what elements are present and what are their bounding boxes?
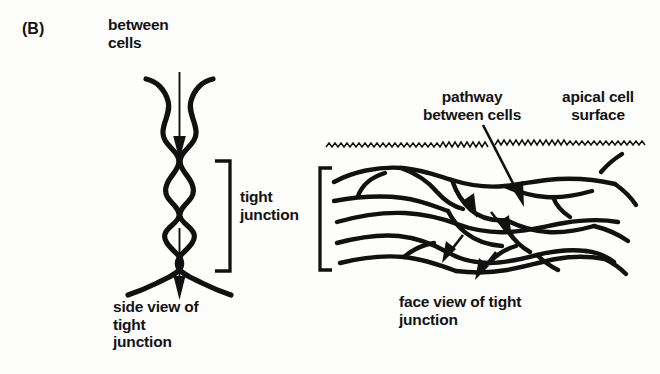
apical-cell-surface-line — [326, 140, 645, 147]
tortuous-path-arrow-4 — [475, 252, 496, 280]
diagram-artwork — [0, 0, 660, 374]
label-face-view-of-tight-junction: face view of tight junction — [399, 293, 521, 328]
right-plasma-membrane — [177, 79, 231, 295]
sealing-strand-network — [334, 154, 636, 274]
label-tight-junction: tight junction — [240, 188, 299, 223]
pathway-leader-arrow-face-view — [483, 125, 524, 207]
label-pathway-between-cells: pathway between cells — [388, 88, 556, 123]
panel-label-b: (B) — [22, 20, 44, 38]
face-view-tight-junction-bracket — [320, 168, 332, 270]
label-apical-cell-surface: apical cell surface — [536, 88, 660, 123]
left-plasma-membrane — [128, 79, 182, 295]
side-view-tight-junction-bracket — [215, 161, 230, 271]
tight-junction-figure-panel-b: (B) between cells tight junction side vi… — [0, 0, 660, 374]
label-side-view-of-tight-junction: side view of tight junction — [113, 298, 198, 351]
tortuous-path-arrow-2 — [491, 212, 512, 240]
label-between-cells: between cells — [108, 16, 169, 51]
